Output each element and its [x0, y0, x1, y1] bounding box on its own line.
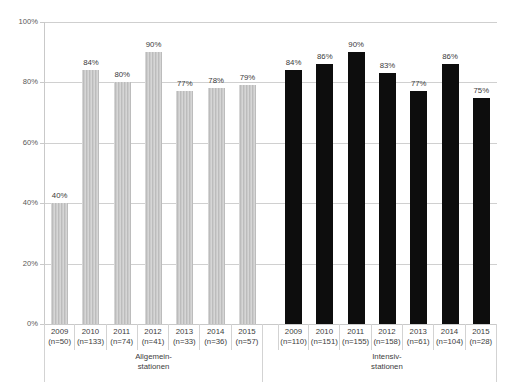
bar-value-label: 84%	[75, 59, 107, 67]
bar	[410, 91, 427, 324]
category-axis-labels: 2009(n=50)2010(n=133)2011(n=74)2012(n=41…	[44, 324, 497, 350]
category-label-cell: 2013(n=33)	[169, 324, 200, 350]
category-year-label: 2011	[107, 327, 137, 337]
group-axis-labels: Allgemein-stationenIntensiv-stationen	[44, 350, 497, 382]
category-sample-size-label: (n=33)	[169, 337, 199, 347]
category-year-label: 2011	[341, 327, 371, 337]
category-label-cell: 2010(n=151)	[309, 324, 340, 350]
category-year-label: 2009	[45, 327, 74, 337]
bar	[145, 52, 162, 324]
category-sample-size-label: (n=28)	[466, 337, 496, 347]
category-label-cell: 2009(n=110)	[278, 324, 309, 350]
bar	[114, 82, 131, 324]
category-sample-size-label: (n=41)	[138, 337, 168, 347]
group-label-line-2: stationen	[278, 362, 496, 372]
category-label-cell: 2011(n=155)	[341, 324, 372, 350]
category-sample-size-label: (n=104)	[434, 337, 464, 347]
category-label-cell: 2015(n=57)	[232, 324, 263, 350]
group-label-cell: Intensiv-stationen	[278, 350, 497, 382]
gridline	[44, 143, 497, 144]
bar-value-label: 90%	[340, 41, 372, 49]
category-year-label: 2012	[138, 327, 168, 337]
y-axis-spine	[44, 22, 45, 324]
group-label-line-1: Allgemein-	[45, 352, 262, 362]
group-label-line-1: Intensiv-	[278, 352, 496, 362]
category-year-label: 2013	[169, 327, 199, 337]
y-axis-tick-label: 100%	[2, 18, 38, 26]
category-label-cell: 2009(n=50)	[44, 324, 75, 350]
gridline	[44, 264, 497, 265]
bar-value-label: 77%	[169, 80, 201, 88]
category-year-label: 2013	[403, 327, 433, 337]
category-sample-size-label: (n=155)	[341, 337, 371, 347]
group-label-cell: Allgemein-stationen	[44, 350, 263, 382]
category-sample-size-label: (n=57)	[232, 337, 262, 347]
category-label-cell: 2015(n=28)	[466, 324, 497, 350]
category-label-cell: 2012(n=158)	[372, 324, 403, 350]
bar	[51, 203, 68, 324]
category-label-cell: 2010(n=133)	[75, 324, 106, 350]
y-axis-tick-label: 80%	[2, 78, 38, 86]
bar	[348, 52, 365, 324]
bar-value-label: 83%	[371, 62, 403, 70]
category-sample-size-label: (n=36)	[201, 337, 231, 347]
bar-value-label: 80%	[106, 71, 138, 79]
category-label-cell: 2011(n=74)	[107, 324, 138, 350]
bar-value-label: 84%	[278, 59, 310, 67]
bar	[379, 73, 396, 324]
category-year-label: 2015	[466, 327, 496, 337]
bar-value-label: 75%	[465, 87, 497, 95]
bar	[442, 64, 459, 324]
bar	[285, 70, 302, 324]
y-axis-tick-label: 0%	[2, 320, 38, 328]
category-year-label: 2012	[372, 327, 402, 337]
bar-value-label: 90%	[138, 41, 170, 49]
category-sample-size-label: (n=151)	[309, 337, 339, 347]
category-sample-size-label: (n=61)	[403, 337, 433, 347]
gridline	[44, 22, 497, 23]
bar	[176, 91, 193, 324]
bar-value-label: 78%	[200, 77, 232, 85]
group-label-line-2: stationen	[45, 362, 262, 372]
bar-value-label: 86%	[309, 53, 341, 61]
category-label-cell: 2013(n=61)	[403, 324, 434, 350]
bar-value-label: 40%	[44, 192, 76, 200]
category-year-label: 2009	[279, 327, 308, 337]
y-axis-tick-label: 60%	[2, 139, 38, 147]
gridline	[44, 203, 497, 204]
category-sample-size-label: (n=50)	[45, 337, 74, 347]
category-year-label: 2014	[434, 327, 464, 337]
category-year-label: 2014	[201, 327, 231, 337]
bar	[82, 70, 99, 324]
bar-value-label: 86%	[434, 53, 466, 61]
y-axis-tick-label: 20%	[2, 260, 38, 268]
category-year-label: 2015	[232, 327, 262, 337]
bar-value-label: 77%	[403, 80, 435, 88]
y-axis-tick-label: 40%	[2, 199, 38, 207]
category-sample-size-label: (n=133)	[75, 337, 105, 347]
bar	[239, 85, 256, 324]
category-sample-size-label: (n=158)	[372, 337, 402, 347]
bar-value-label: 79%	[231, 74, 263, 82]
category-year-label: 2010	[309, 327, 339, 337]
bar	[316, 64, 333, 324]
category-label-cell: 2014(n=104)	[434, 324, 465, 350]
category-sample-size-label: (n=110)	[279, 337, 308, 347]
category-sample-size-label: (n=74)	[107, 337, 137, 347]
category-label-cell: 2014(n=36)	[201, 324, 232, 350]
bar	[473, 98, 490, 325]
bar	[208, 88, 225, 324]
category-year-label: 2010	[75, 327, 105, 337]
bar-chart: 0%20%40%60%80%100% 40%84%80%90%77%78%79%…	[0, 0, 505, 388]
category-label-cell: 2012(n=41)	[138, 324, 169, 350]
